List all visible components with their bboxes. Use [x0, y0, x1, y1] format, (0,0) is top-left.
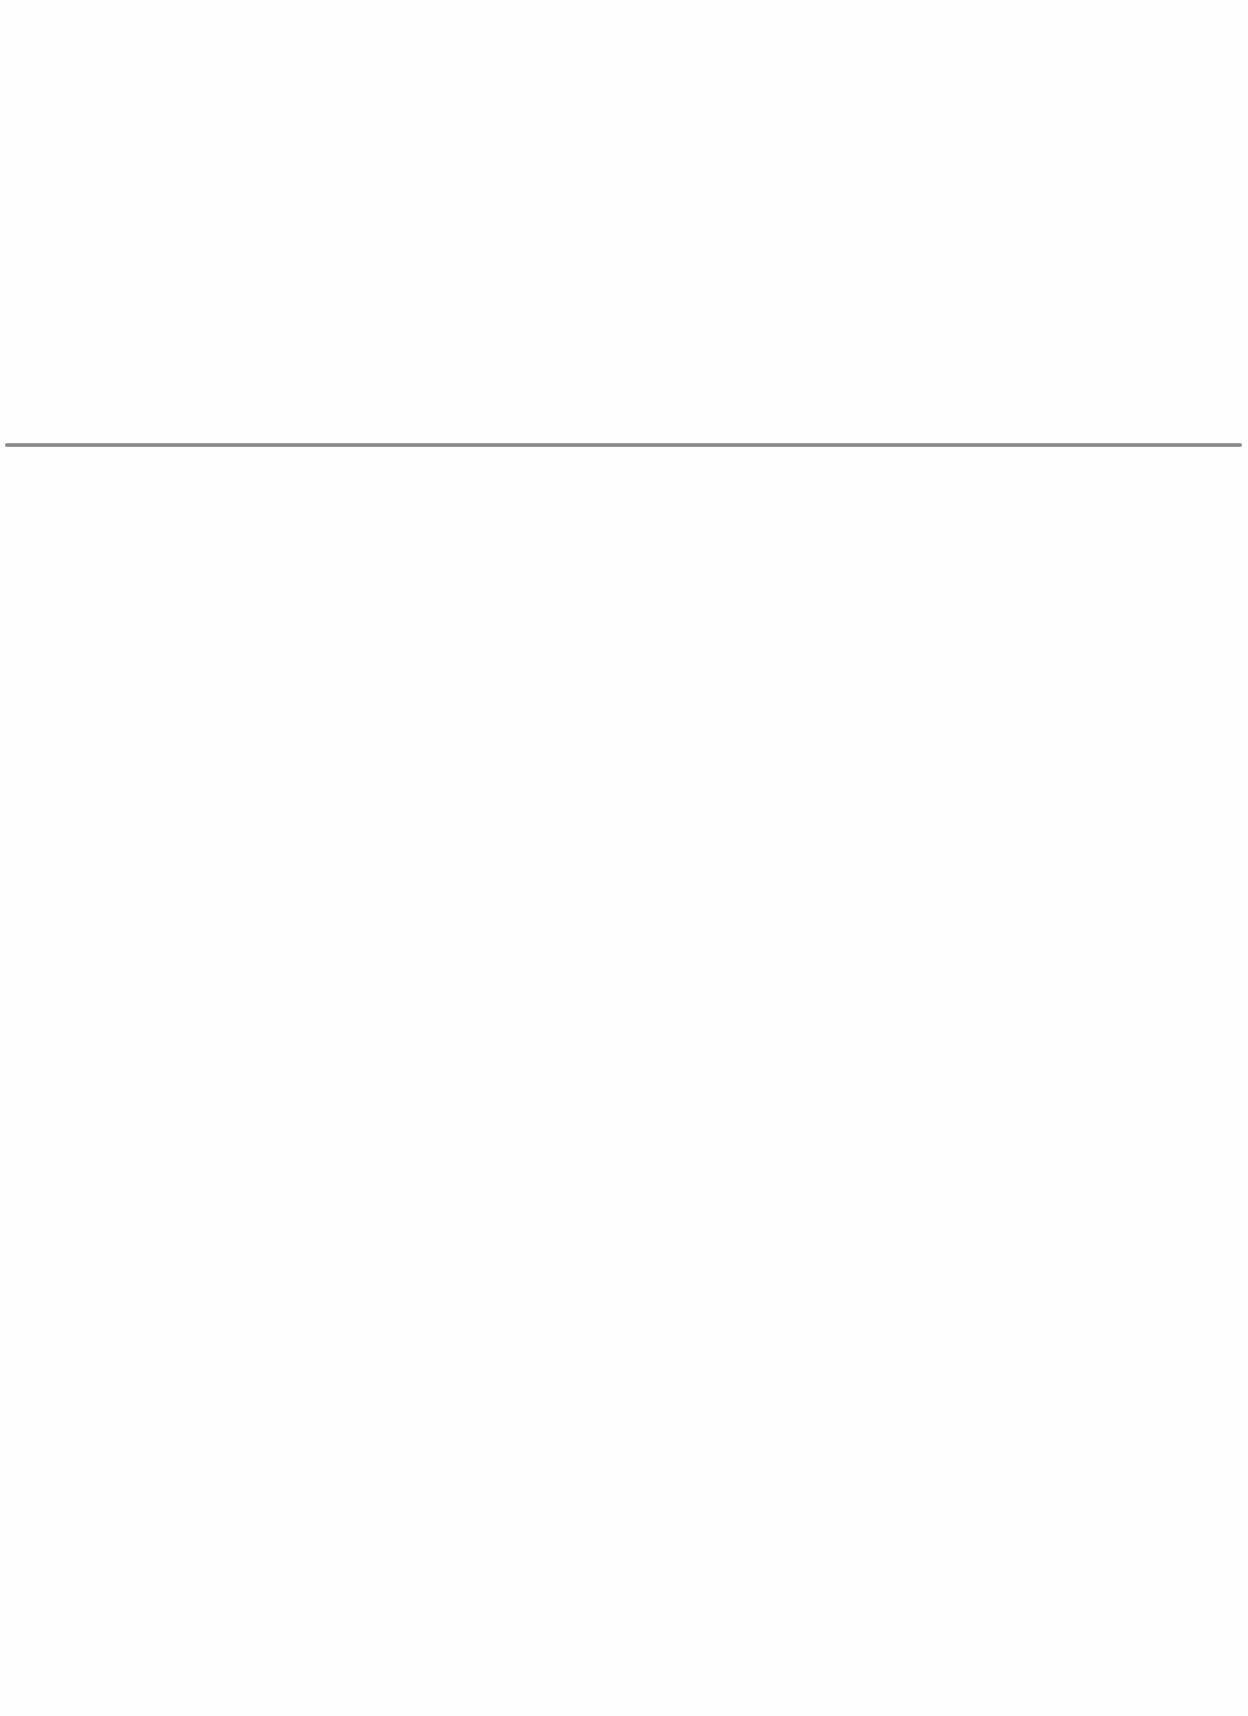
horizontal-divider: [5, 443, 1242, 447]
blank-document-page: [0, 0, 1248, 1716]
